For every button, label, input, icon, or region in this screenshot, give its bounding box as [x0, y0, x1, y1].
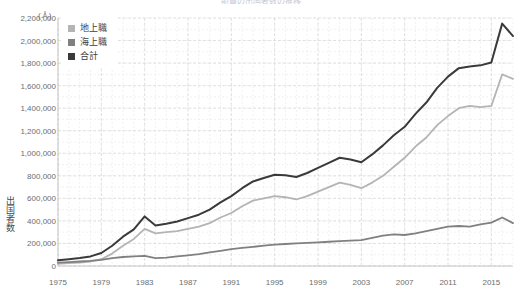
x-axis-tick-label: 1979 — [92, 278, 110, 287]
y-axis-tick-label: 600,000 — [2, 194, 56, 203]
y-axis-tick-label: 1,200,000 — [2, 126, 56, 135]
legend-item-total: 合計 — [68, 50, 107, 63]
y-axis-tick-label: 2,200,000 — [2, 14, 56, 23]
chart-title: 船員の出国者数の推移 — [0, 0, 522, 4]
chart-legend: 地上職 海上職 合計 — [62, 17, 117, 68]
y-axis-tick-label: 200,000 — [2, 239, 56, 248]
y-axis-tick-label: 1,600,000 — [2, 81, 56, 90]
y-axis-tick-label: 400,000 — [2, 216, 56, 225]
x-axis-tick-label: 1995 — [266, 278, 284, 287]
x-axis-tick-label: 2011 — [439, 278, 456, 287]
y-axis-tick-label: 800,000 — [2, 171, 56, 180]
y-axis-tick-label: 1,800,000 — [2, 59, 56, 68]
x-axis-tick-label: 2003 — [352, 278, 370, 287]
x-axis-tick-label: 1991 — [222, 278, 240, 287]
legend-label-chijoshoku: 地上職 — [80, 24, 107, 33]
x-axis-tick-label: 1983 — [136, 278, 154, 287]
chart-container: 船員の出国者数の推移 (人) 出国者数 2,200,0002,000,0001,… — [0, 0, 522, 300]
legend-swatch-kaijoshoku — [68, 39, 75, 46]
legend-swatch-total — [68, 53, 75, 60]
y-axis-tick-label: 1,400,000 — [2, 104, 56, 113]
y-axis-tick-label: 1,000,000 — [2, 149, 56, 158]
legend-label-kaijoshoku: 海上職 — [80, 38, 107, 47]
legend-swatch-chijoshoku — [68, 25, 75, 32]
x-axis-tick-label: 2015 — [482, 278, 500, 287]
x-axis-tick-label: 2007 — [396, 278, 414, 287]
x-axis-tick-label: 1987 — [179, 278, 197, 287]
legend-item-chijoshoku: 地上職 — [68, 22, 107, 35]
x-axis-tick-label: 1999 — [309, 278, 327, 287]
y-axis-tick-labels: 2,200,0002,000,0001,800,0001,600,0001,40… — [0, 0, 56, 300]
legend-item-kaijoshoku: 海上職 — [68, 36, 107, 49]
y-axis-tick-label: 2,000,000 — [2, 36, 56, 45]
y-axis-tick-label: 0 — [2, 262, 56, 271]
x-axis-tick-label: 1975 — [49, 278, 67, 287]
legend-label-total: 合計 — [80, 52, 98, 61]
